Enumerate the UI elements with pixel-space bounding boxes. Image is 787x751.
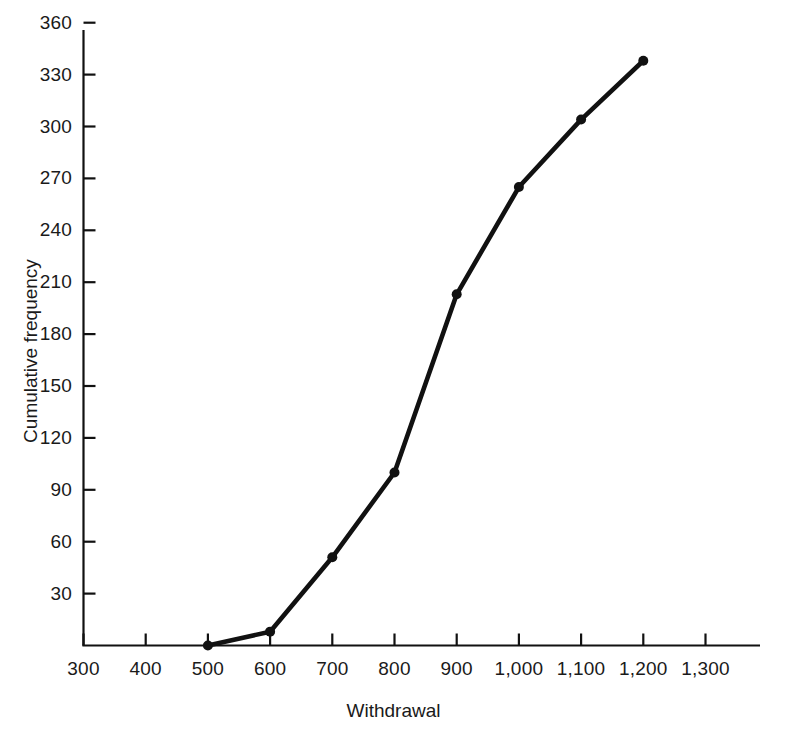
data-point-marker bbox=[203, 641, 213, 651]
x-axis-tick-label: 1,200 bbox=[619, 658, 668, 680]
y-axis-tick-label: 240 bbox=[10, 219, 72, 241]
data-point-marker bbox=[327, 552, 337, 562]
data-point-marker bbox=[638, 56, 648, 66]
x-axis-ticks bbox=[84, 634, 706, 646]
y-axis-tick-label: 60 bbox=[10, 531, 72, 553]
y-axis-tick-label: 270 bbox=[10, 167, 72, 189]
x-axis-tick-label: 1,100 bbox=[557, 658, 606, 680]
data-point-marker bbox=[514, 182, 524, 192]
y-axis-tick-label: 90 bbox=[10, 479, 72, 501]
plot-area bbox=[0, 0, 787, 751]
axis-lines bbox=[82, 30, 760, 646]
y-axis-tick-label: 30 bbox=[10, 583, 72, 605]
data-point-marker bbox=[452, 289, 462, 299]
cumulative-frequency-chart: 306090120150180210240270300330360 300400… bbox=[0, 0, 787, 751]
y-axis-title: Cumulative frequency bbox=[20, 241, 42, 461]
x-axis-tick-label: 600 bbox=[254, 658, 286, 680]
y-axis-tick-label: 360 bbox=[10, 12, 72, 34]
x-axis-tick-label: 1,000 bbox=[495, 658, 544, 680]
x-axis-tick-label: 900 bbox=[441, 658, 473, 680]
y-axis-tick-label: 330 bbox=[10, 64, 72, 86]
data-point-marker bbox=[390, 468, 400, 478]
data-point-marker bbox=[576, 115, 586, 125]
y-axis-tick-label: 300 bbox=[10, 116, 72, 138]
x-axis-tick-label: 800 bbox=[378, 658, 410, 680]
x-axis-tick-label: 1,300 bbox=[681, 658, 730, 680]
data-point-marker bbox=[265, 627, 275, 637]
x-axis-tick-label: 500 bbox=[192, 658, 224, 680]
data-line-series bbox=[208, 61, 643, 646]
y-axis-ticks bbox=[84, 23, 96, 594]
x-axis-title: Withdrawal bbox=[0, 700, 787, 722]
x-axis-tick-label: 300 bbox=[67, 658, 99, 680]
data-point-markers bbox=[203, 56, 648, 651]
x-axis-tick-label: 400 bbox=[130, 658, 162, 680]
x-axis-tick-label: 700 bbox=[316, 658, 348, 680]
